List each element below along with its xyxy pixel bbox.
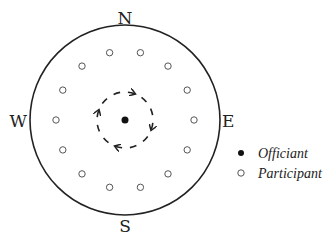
participant-dot	[79, 63, 85, 69]
rotation-dash	[142, 97, 147, 102]
participant-dot	[137, 184, 143, 190]
rotation-dash	[104, 138, 109, 143]
officiant-dot	[122, 117, 129, 124]
participant-dot	[106, 184, 112, 190]
participant-dot	[165, 171, 171, 177]
participant-dot	[60, 147, 66, 153]
participant-dot	[184, 87, 190, 93]
rotation-arrow	[151, 123, 153, 130]
rotation-dash	[151, 109, 153, 116]
rotation-arrow	[97, 110, 99, 117]
participant-dot	[165, 63, 171, 69]
legend-officiant-label: Officiant	[258, 146, 309, 161]
label-west: W	[10, 111, 28, 131]
rotation-dash	[130, 146, 137, 148]
rotation-arrow	[115, 146, 122, 148]
rotation-dash	[114, 92, 121, 94]
legend-participant-label: Participant	[257, 166, 323, 181]
rotation-dash	[143, 137, 148, 142]
participant-dot	[191, 117, 197, 123]
rotation-dash	[102, 99, 107, 104]
participant-dot	[137, 50, 143, 56]
ritual-circle-diagram: N S W E Officiant Participant	[0, 0, 332, 242]
participant-dot	[53, 117, 59, 123]
label-east: E	[222, 111, 234, 131]
legend: Officiant Participant	[238, 146, 323, 181]
legend-officiant-icon	[238, 150, 244, 156]
rotation-dash	[97, 125, 99, 131]
rotation-arrow	[128, 92, 135, 94]
participant-dot	[79, 171, 85, 177]
participant-dot	[184, 147, 190, 153]
participant-dot	[106, 50, 112, 56]
label-north: N	[118, 8, 133, 28]
participant-dot	[60, 87, 66, 93]
legend-participant-icon	[238, 170, 244, 176]
label-south: S	[119, 216, 131, 236]
